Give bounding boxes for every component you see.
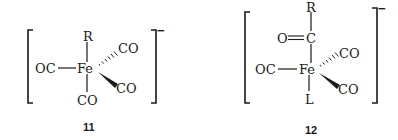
left-bracket <box>28 30 33 103</box>
wedge-bond <box>98 72 118 88</box>
ligand-l-bottom: L <box>305 92 314 107</box>
atom-acyl-c: C <box>306 31 316 46</box>
ligand-co-lower-right: CO <box>116 81 137 96</box>
structure-11: − R Fe OC CO CO CO 11 <box>28 23 165 133</box>
ligand-co-upper-right: CO <box>339 46 360 61</box>
atom-fe: Fe <box>299 62 315 77</box>
compound-number: 12 <box>305 124 317 136</box>
ligand-oc-left: OC <box>35 61 56 76</box>
ligand-oc-left: OC <box>255 62 276 77</box>
atom-r: R <box>306 0 317 15</box>
structure-12: − R C O Fe OC L CO CO 12 <box>245 0 386 136</box>
chemical-structures-diagram: − R Fe OC CO CO CO 11 − <box>0 0 398 140</box>
hashed-bond <box>99 52 118 66</box>
right-bracket <box>372 8 377 103</box>
wedge-bond <box>319 73 340 89</box>
ligand-co-lower-right: CO <box>338 82 359 97</box>
charge-label: − <box>157 23 165 38</box>
atom-acyl-o: O <box>277 31 288 46</box>
hashed-bond <box>320 53 339 67</box>
ligand-co-upper-right: CO <box>118 41 139 56</box>
left-bracket <box>245 12 250 103</box>
compound-number: 11 <box>83 121 95 133</box>
ligand-co-bottom: CO <box>77 93 98 108</box>
atom-r: R <box>83 29 94 44</box>
right-bracket <box>151 30 156 103</box>
atom-fe: Fe <box>77 61 93 76</box>
charge-label: − <box>378 1 386 16</box>
